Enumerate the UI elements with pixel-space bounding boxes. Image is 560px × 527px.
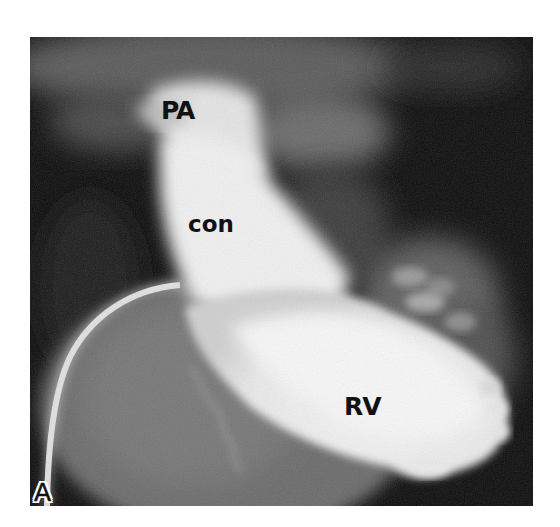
angiogram-image: PA con RV A (30, 37, 533, 506)
angiogram-drawing (30, 37, 533, 506)
label-right-ventricle: RV (344, 394, 381, 419)
label-conus: con (188, 213, 234, 236)
label-pulmonary-artery: PA (161, 98, 194, 123)
panel-letter: A (34, 480, 51, 505)
